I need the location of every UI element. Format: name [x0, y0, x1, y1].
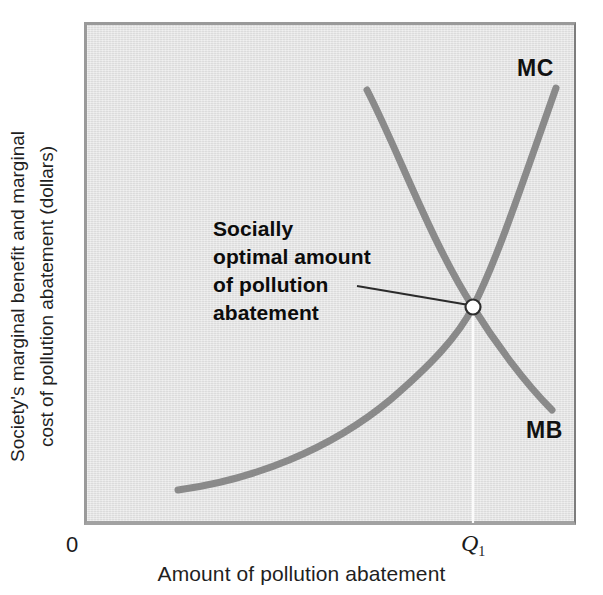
annotation-line-2: optimal amount	[213, 243, 371, 271]
y-axis-title: Society's marginal benefit and marginal …	[4, 47, 61, 547]
annotation-line-4: abatement	[213, 299, 371, 327]
q-symbol: Q	[461, 530, 478, 556]
mc-curve-label: MC	[517, 56, 554, 80]
annotation-line-1: Socially	[213, 215, 371, 243]
mb-curve	[367, 90, 552, 410]
origin-label: 0	[66, 533, 78, 556]
annotation-line-3: of pollution	[213, 271, 371, 299]
annotation-leader-line	[357, 286, 469, 305]
mb-curve-label: MB	[526, 418, 563, 442]
equilibrium-point-marker	[466, 300, 481, 315]
y-axis-title-line-2: cost of pollution abatement (dollars)	[32, 47, 61, 547]
annotation-callout: Socially optimal amount of pollution aba…	[213, 215, 371, 327]
economics-figure: MC MB Socially optimal amount of polluti…	[0, 0, 603, 595]
x-axis-tick-label-q1: Q1	[461, 531, 485, 560]
q-subscript: 1	[478, 544, 485, 559]
x-axis-title: Amount of pollution abatement	[0, 563, 603, 585]
y-axis-title-line-1: Society's marginal benefit and marginal	[4, 47, 33, 547]
